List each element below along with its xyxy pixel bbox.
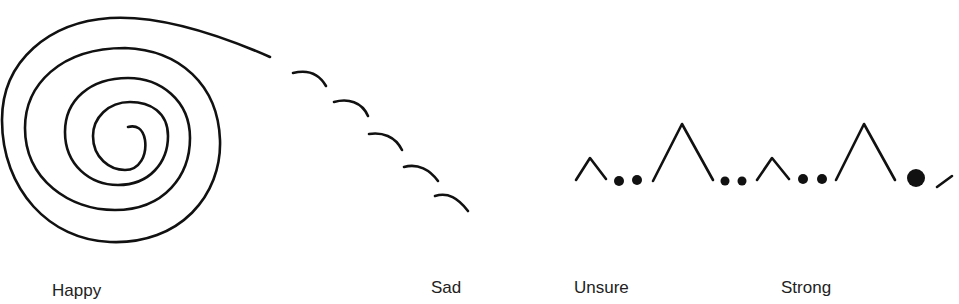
emotion-drawings	[0, 0, 959, 304]
descending-arcs-icon	[293, 72, 468, 211]
label-strong: Strong	[781, 278, 831, 298]
small-peaks-and-dots-icon	[576, 124, 747, 186]
label-sad: Sad	[431, 278, 461, 298]
label-happy: Happy	[52, 281, 101, 301]
tall-peaks-and-dots-icon	[757, 124, 952, 187]
label-unsure: Unsure	[574, 278, 629, 298]
spiral-icon	[2, 18, 270, 242]
